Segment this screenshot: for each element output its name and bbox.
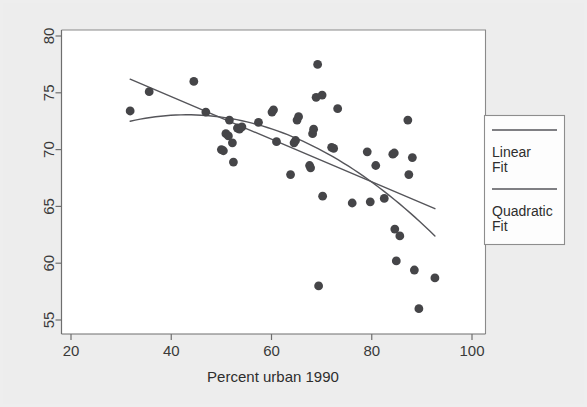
data-point <box>395 232 404 241</box>
y-tick-label: 55 <box>40 312 57 329</box>
x-tick-label: 100 <box>459 342 484 359</box>
data-point <box>219 146 228 155</box>
data-point <box>238 122 247 131</box>
data-point <box>380 194 389 203</box>
data-point <box>229 158 238 167</box>
data-point <box>314 282 323 291</box>
y-tick-label: 80 <box>40 28 57 45</box>
data-point <box>414 304 423 313</box>
legend-label-quadratic-line1: Quadratic <box>492 203 553 219</box>
legend-label-linear-line1: Linear <box>492 144 531 160</box>
data-point <box>404 170 413 179</box>
y-tick-label: 70 <box>40 141 57 158</box>
data-point <box>431 274 440 283</box>
y-tick-label: 65 <box>40 198 57 215</box>
data-point <box>333 104 342 113</box>
data-point <box>410 266 419 275</box>
data-point <box>366 197 375 206</box>
x-tick-label: 60 <box>263 342 280 359</box>
legend: Linear Fit Quadratic Fit <box>485 116 565 245</box>
data-point <box>254 118 263 127</box>
x-axis-title: Percent urban 1990 <box>207 368 339 385</box>
x-tick-label: 80 <box>363 342 380 359</box>
data-point <box>371 161 380 170</box>
data-point <box>309 125 318 134</box>
data-point <box>228 138 237 147</box>
legend-label-quadratic-line2: Fit <box>492 218 508 234</box>
data-point <box>348 199 357 208</box>
y-tick-label: 75 <box>40 84 57 101</box>
data-point <box>403 116 412 125</box>
y-tick-label: 60 <box>40 255 57 272</box>
data-point <box>408 153 417 162</box>
data-point <box>189 77 198 86</box>
chart-page: 556065707580 20406080100 Percent urban 1… <box>0 0 587 407</box>
data-point <box>306 163 315 172</box>
data-point <box>294 112 303 121</box>
legend-label-linear-line2: Fit <box>492 159 508 175</box>
data-point <box>201 108 210 117</box>
data-point <box>126 107 135 116</box>
data-point <box>329 144 338 153</box>
data-point <box>145 87 154 96</box>
data-point <box>225 116 234 125</box>
data-point <box>392 257 401 266</box>
x-tick-label: 20 <box>63 342 80 359</box>
plot-area-background <box>62 30 486 334</box>
x-axis-ticks: 20406080100 <box>63 334 485 359</box>
data-point <box>318 91 327 100</box>
data-point <box>313 60 322 69</box>
data-point <box>272 137 281 146</box>
data-point <box>291 136 300 145</box>
data-point <box>363 147 372 156</box>
data-point <box>318 192 327 201</box>
data-point <box>269 105 278 114</box>
y-axis-ticks: 556065707580 <box>40 28 61 329</box>
x-tick-label: 40 <box>163 342 180 359</box>
data-point <box>390 149 399 158</box>
data-point <box>286 170 295 179</box>
scatter-plot-figure: 556065707580 20406080100 Percent urban 1… <box>0 0 587 407</box>
